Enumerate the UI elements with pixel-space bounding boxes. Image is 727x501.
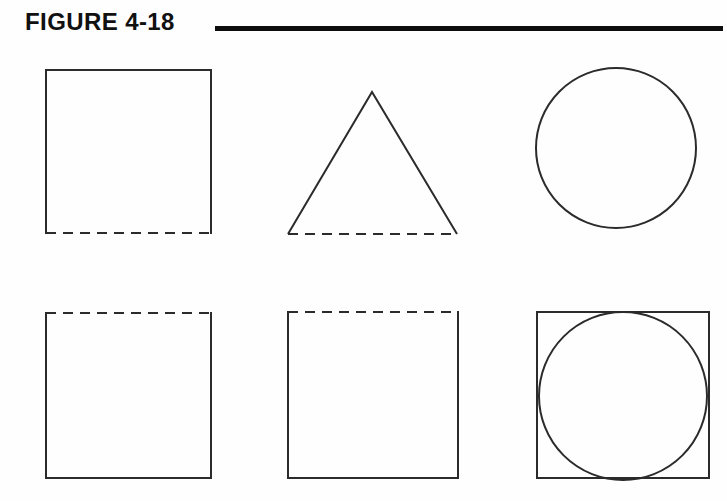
shape-cell-bottom-left [0, 292, 242, 501]
shape-cell-top-right [510, 52, 727, 282]
figure-header: FIGURE 4-18 [0, 0, 727, 52]
circle-plain [510, 52, 727, 282]
shape-cell-top-left [0, 52, 242, 282]
square-dashed-top-left [0, 292, 242, 501]
square-dashed-top-middle [250, 292, 500, 501]
figure-header-rule [215, 26, 723, 31]
triangle-solid-sides [288, 92, 457, 234]
square-solid-edges [46, 313, 211, 478]
figure-page: FIGURE 4-18 [0, 0, 727, 501]
figure-title: FIGURE 4-18 [25, 8, 175, 36]
figure-shape-grid [0, 52, 727, 501]
square-solid-edges [46, 70, 211, 233]
shape-cell-bottom-right [510, 292, 727, 501]
square-solid-edges [288, 312, 458, 478]
square-dashed-bottom [0, 52, 242, 282]
square-with-inscribed-circle [510, 292, 727, 501]
shape-cell-top-middle [250, 52, 500, 282]
shape-cell-bottom-middle [250, 292, 500, 501]
circle-outline [536, 68, 696, 228]
triangle-dashed-base [250, 52, 500, 282]
inscribed-circle [539, 312, 707, 480]
